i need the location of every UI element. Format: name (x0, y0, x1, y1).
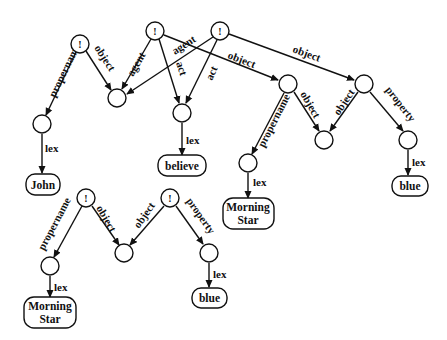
label-agent-m2: agent (124, 49, 147, 78)
node-shared-agent-object (108, 89, 126, 107)
lex-box-morning-star-2: Morning Star (24, 297, 76, 328)
node-morningstar-base-2 (41, 257, 59, 275)
label-lex-morningstar-1: lex (253, 176, 267, 188)
svg-text:John: John (31, 179, 56, 191)
svg-text:blue: blue (199, 292, 220, 304)
label-lex-morningstar-2: lex (54, 281, 68, 293)
node-m5 (355, 75, 373, 93)
label-act-m2: act (174, 60, 190, 77)
lex-box-john: John (26, 174, 60, 195)
label-property-m7: property (184, 195, 218, 236)
label-property-m5: property (383, 84, 418, 124)
node-shared-object (315, 131, 333, 149)
svg-text:!: ! (153, 26, 156, 37)
svg-text:!: ! (84, 193, 87, 204)
lex-box-morning-star-1: Morning Star (223, 198, 274, 229)
svg-text:believe: believe (165, 160, 199, 172)
label-object-m6: object (94, 203, 119, 234)
svg-text:Morning: Morning (226, 201, 270, 214)
label-lex-john: lex (45, 142, 59, 154)
node-property-blue-1 (399, 131, 417, 149)
label-propername-m4: propername (255, 92, 292, 149)
label-lex-believe: lex (186, 134, 200, 146)
assertion-node-m2: ! (146, 22, 164, 40)
label-object-m2: object (226, 49, 257, 71)
node-john-base (33, 115, 51, 133)
svg-text:Star: Star (237, 214, 258, 226)
node-m4 (279, 75, 297, 93)
node-morningstar-base-1 (239, 154, 257, 172)
lex-box-believe: believe (158, 155, 206, 176)
svg-text:!: ! (218, 26, 221, 37)
semantic-network-diagram: propername object agent agent act act ob… (0, 0, 447, 340)
label-object-m7: object (131, 199, 157, 230)
node-property-blue-2 (200, 244, 218, 262)
svg-text:Morning: Morning (28, 300, 72, 313)
assertion-node-m6: ! (77, 189, 95, 207)
svg-text:!: ! (168, 193, 171, 204)
node-shared-object-lower (115, 244, 133, 262)
lex-box-blue-1: blue (392, 176, 428, 196)
node-act-believe (173, 104, 191, 122)
lex-box-blue-2: blue (192, 288, 227, 308)
label-lex-blue-2: lex (213, 268, 227, 280)
assertion-node-m3: ! (211, 22, 229, 40)
assertion-node-m7: ! (161, 189, 179, 207)
svg-text:!: ! (78, 39, 81, 50)
svg-text:Star: Star (39, 313, 60, 325)
label-object-m3: object (291, 43, 322, 64)
label-propername-m6: propername (35, 195, 73, 252)
svg-text:blue: blue (399, 180, 420, 192)
label-lex-blue-1: lex (412, 156, 426, 168)
label-agent-m3: agent (170, 32, 198, 56)
label-act-m3: act (203, 64, 220, 82)
label-object-m1: object (92, 43, 118, 74)
assertion-node-m1: ! (71, 35, 89, 53)
